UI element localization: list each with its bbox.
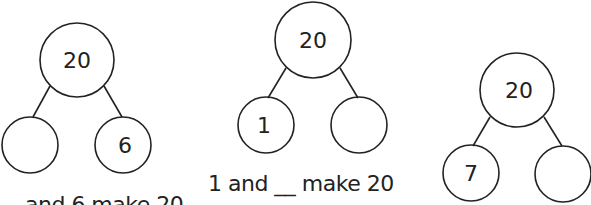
bond-2-sentence: 1 and __ make 20 (208, 171, 394, 196)
bond-2-right-part-circle[interactable] (331, 97, 387, 153)
bond-3-whole: 20 (505, 78, 533, 103)
bond-1-left-part-circle[interactable] (2, 117, 58, 173)
bond-3-left: 7 (464, 161, 478, 186)
bond-1-right: 6 (118, 133, 132, 158)
bond-1-whole: 20 (63, 48, 91, 73)
bond-1-sentence: _ and 6 make 20 (8, 192, 183, 205)
number-bonds-worksheet: 20 6 20 1 20 7 _ and 6 make 20 1 and __ … (0, 0, 591, 205)
bond-2-whole: 20 (299, 28, 327, 53)
bond-3-right-part-circle[interactable] (535, 146, 591, 202)
bond-2-left: 1 (257, 113, 271, 138)
